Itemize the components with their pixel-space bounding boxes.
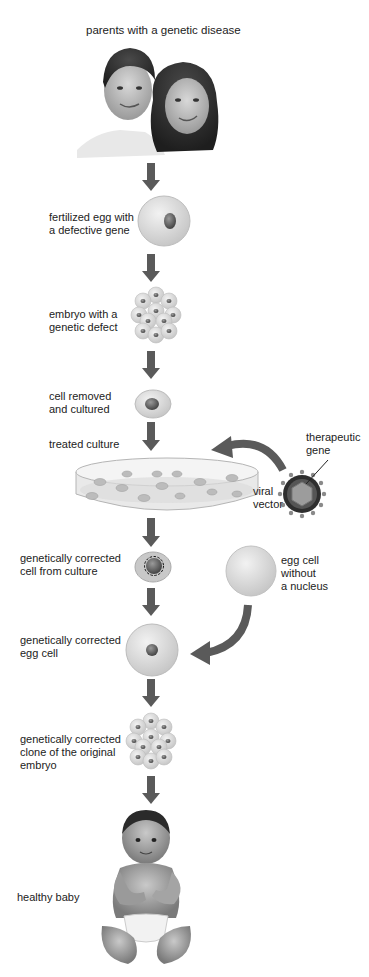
corrected-cell <box>134 551 172 583</box>
label-line: cell from culture <box>20 565 121 578</box>
label-line: genetic defect <box>49 321 118 334</box>
label-viral-vector: viral vector <box>253 485 283 511</box>
arrow-down-icon <box>142 518 160 548</box>
label-line: genetically corrected <box>20 552 121 565</box>
pointer-line <box>302 458 332 488</box>
label-corrected-egg: genetically corrected egg cell <box>20 634 121 660</box>
arrow-down-icon <box>142 679 160 707</box>
label-line: embryo with a <box>49 308 118 321</box>
parents-illustration <box>75 40 235 160</box>
healthy-baby-illustration <box>98 808 198 970</box>
label-line: a nucleus <box>281 580 328 593</box>
label-line: fertilized egg with <box>49 211 134 224</box>
label-line: egg cell <box>281 554 328 567</box>
label-cell-removed: cell removed and cultured <box>49 390 111 416</box>
arrow-down-icon <box>142 422 160 452</box>
fertilized-egg-cell <box>136 194 192 248</box>
label-line: cell removed <box>49 390 111 403</box>
arrow-down-icon <box>142 163 160 191</box>
label-therapeutic-gene: therapeutic gene <box>306 431 360 457</box>
petri-dish <box>72 456 262 518</box>
label-egg-without-nucleus: egg cell without a nucleus <box>281 554 328 593</box>
arrow-down-icon <box>142 351 160 379</box>
label-line: a defective gene <box>49 224 134 237</box>
label-line: therapeutic <box>306 431 360 444</box>
label-line: gene <box>306 444 360 457</box>
curved-arrow-icon <box>188 603 258 663</box>
title-parents-label: parents with a genetic disease <box>86 24 241 37</box>
embryo-cluster <box>131 287 181 343</box>
label-line: clone of the original <box>20 746 121 759</box>
label-embryo-defect: embryo with a genetic defect <box>49 308 118 334</box>
label-healthy-baby: healthy baby <box>17 891 79 904</box>
label-line: vector <box>253 498 283 511</box>
label-line: genetically corrected <box>20 634 121 647</box>
corrected-embryo-cluster <box>126 713 176 769</box>
arrow-down-icon <box>142 588 160 616</box>
removed-cell <box>134 389 172 419</box>
arrow-down-icon <box>142 776 160 804</box>
label-fertilized-egg: fertilized egg with a defective gene <box>49 211 134 237</box>
label-line: egg cell <box>20 647 121 660</box>
label-corrected-cell: genetically corrected cell from culture <box>20 552 121 578</box>
label-line: genetically corrected <box>20 733 121 746</box>
label-line: and cultured <box>49 403 111 416</box>
label-corrected-clone: genetically corrected clone of the origi… <box>20 733 121 772</box>
enucleated-egg <box>225 545 277 597</box>
corrected-egg-cell <box>124 622 180 678</box>
label-line: embryo <box>20 759 121 772</box>
label-line: without <box>281 567 328 580</box>
label-treated-culture: treated culture <box>49 438 119 451</box>
label-line: viral <box>253 485 283 498</box>
arrow-down-icon <box>142 254 160 282</box>
